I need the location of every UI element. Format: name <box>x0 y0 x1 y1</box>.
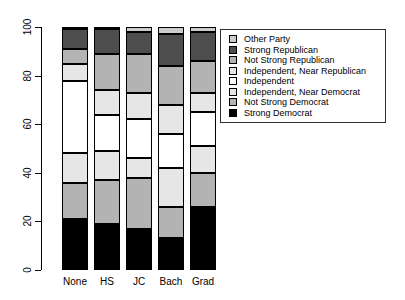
bar-segment <box>158 168 184 207</box>
bar-jc <box>126 27 152 270</box>
y-tick <box>35 173 41 174</box>
bar-grad <box>190 27 216 270</box>
y-tick-label: 20 <box>22 216 33 227</box>
legend-label: Independent, Near Republican <box>244 66 366 76</box>
legend-item: Independent <box>229 76 385 87</box>
bar-segment <box>94 180 120 224</box>
bar-segment <box>126 229 152 270</box>
legend-swatch-icon <box>229 88 237 96</box>
x-tick-label: Bach <box>160 276 183 287</box>
y-tick <box>35 27 41 28</box>
legend-label: Not Strong Republican <box>244 55 335 65</box>
legend-swatch-icon <box>229 77 237 85</box>
bar-segment <box>126 178 152 229</box>
bar-segment <box>126 54 152 93</box>
bar-segment <box>190 112 216 146</box>
bar-segment <box>94 151 120 180</box>
legend-swatch-icon <box>229 67 237 75</box>
legend-label: Independent <box>244 76 294 86</box>
bar-segment <box>126 32 152 54</box>
bar-segment <box>190 32 216 61</box>
legend-label: Independent, Near Democrat <box>244 87 360 97</box>
legend-item: Other Party <box>229 34 385 45</box>
y-tick-label: 0 <box>22 267 33 273</box>
bar-segment <box>62 81 88 154</box>
bar-bach <box>158 27 184 270</box>
legend-swatch-icon <box>229 35 237 43</box>
x-tick-label: None <box>63 276 87 287</box>
legend-label: Strong Republican <box>244 45 318 55</box>
x-tick-label: HS <box>100 276 114 287</box>
bar-segment <box>94 90 120 114</box>
bar-segment <box>126 93 152 120</box>
bar-segment <box>158 105 184 134</box>
bar-segment <box>94 224 120 270</box>
bar-segment <box>62 183 88 219</box>
bar-segment <box>62 219 88 270</box>
bar-segment <box>190 146 216 173</box>
legend-label: Strong Democrat <box>244 108 312 118</box>
bar-segment <box>126 158 152 177</box>
bar-segment <box>190 173 216 207</box>
legend-item: Strong Republican <box>229 45 385 56</box>
y-tick-label: 100 <box>22 19 33 36</box>
legend-item: Independent, Near Republican <box>229 66 385 77</box>
legend-item: Not Strong Democrat <box>229 97 385 108</box>
bar-segment <box>62 49 88 64</box>
y-tick-label: 60 <box>22 119 33 130</box>
bar-segment <box>158 66 184 105</box>
legend: Other PartyStrong RepublicanNot Strong R… <box>220 29 386 123</box>
legend-item: Not Strong Republican <box>229 55 385 66</box>
y-tick <box>35 124 41 125</box>
bar-segment <box>158 34 184 66</box>
legend-swatch-icon <box>229 109 237 117</box>
legend-item: Strong Democrat <box>229 108 385 119</box>
bar-segment <box>62 153 88 182</box>
bar-segment <box>190 93 216 112</box>
bar-segment <box>158 27 184 34</box>
x-tick-label: JC <box>133 276 145 287</box>
legend-swatch-icon <box>229 98 237 106</box>
y-axis <box>41 27 42 270</box>
legend-label: Other Party <box>244 34 290 44</box>
y-tick <box>35 221 41 222</box>
bar-none <box>62 27 88 270</box>
bar-segment <box>62 29 88 48</box>
bar-segment <box>62 64 88 81</box>
legend-swatch-icon <box>229 46 237 54</box>
legend-swatch-icon <box>229 56 237 64</box>
bar-segment <box>158 238 184 270</box>
bar-segment <box>190 207 216 270</box>
bar-segment <box>94 115 120 151</box>
y-tick <box>35 76 41 77</box>
x-tick-label: Grad <box>192 276 214 287</box>
legend-item: Independent, Near Democrat <box>229 87 385 98</box>
bar-segment <box>94 54 120 90</box>
y-tick-label: 80 <box>22 70 33 81</box>
bar-segment <box>158 207 184 239</box>
y-tick-label: 40 <box>22 167 33 178</box>
bar-segment <box>158 134 184 168</box>
bar-hs <box>94 27 120 270</box>
y-tick <box>35 270 41 271</box>
bar-segment <box>94 29 120 53</box>
bar-segment <box>190 61 216 93</box>
stacked-bar-chart: 020406080100 NoneHSJCBachGrad Other Part… <box>0 0 405 300</box>
bar-segment <box>126 119 152 158</box>
legend-label: Not Strong Democrat <box>244 97 329 107</box>
